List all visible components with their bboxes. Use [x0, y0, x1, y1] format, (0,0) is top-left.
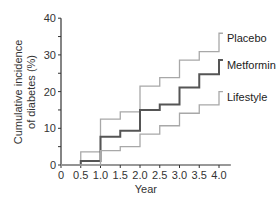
x-tick-label: 1.5 — [113, 169, 128, 181]
y-tick-label: 30 — [44, 49, 56, 61]
y-tick-label: 0 — [50, 159, 56, 171]
x-tick-label: 0.5 — [73, 169, 88, 181]
legend-label-placebo: Placebo — [227, 32, 267, 44]
x-tick-label: 3.5 — [192, 169, 207, 181]
legend-label-lifestyle: Lifestyle — [227, 91, 267, 103]
x-tick-label: 3.0 — [172, 169, 187, 181]
x-tick-label: 0 — [58, 169, 64, 181]
step-chart: 01020304000.51.01.52.02.53.03.54.0YearCu… — [0, 0, 278, 206]
axes: 01020304000.51.01.52.02.53.03.54.0YearCu… — [12, 12, 231, 195]
x-axis-title: Year — [135, 183, 158, 195]
x-tick-label: 1.0 — [93, 169, 108, 181]
series-line-placebo — [61, 33, 223, 165]
series-line-lifestyle — [61, 92, 223, 165]
legend: PlaceboMetforminLifestyle — [227, 32, 276, 102]
y-tick-label: 40 — [44, 12, 56, 24]
series-lines — [61, 33, 223, 165]
y-tick-label: 10 — [44, 122, 56, 134]
legend-label-metformin: Metformin — [227, 59, 276, 71]
x-tick-label: 2.0 — [132, 169, 147, 181]
y-tick-label: 20 — [44, 86, 56, 98]
x-tick-label: 2.5 — [152, 169, 167, 181]
y-axis-title: Cumulative incidenceof diabetes (%) — [12, 40, 37, 145]
x-tick-label: 4.0 — [211, 169, 226, 181]
